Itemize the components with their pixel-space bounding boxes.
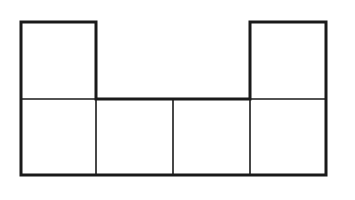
square-net-diagram bbox=[0, 0, 355, 200]
inner-lines bbox=[21, 99, 326, 175]
